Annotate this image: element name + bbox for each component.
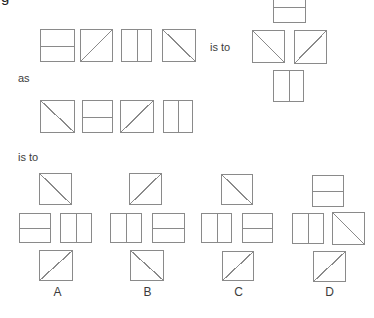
as-label: as	[18, 72, 30, 84]
first-result-top-square	[273, 0, 306, 23]
option-c[interactable]: C	[196, 170, 281, 302]
option-c-top-square	[221, 174, 253, 205]
option-a-left-square	[19, 213, 51, 243]
corner-text-fragment: g	[1, 0, 9, 5]
second-sequence-square-3	[120, 100, 154, 133]
second-sequence-square-1	[40, 100, 75, 133]
option-d-top-square	[312, 175, 344, 207]
is-to-label-bottom: is to	[18, 151, 38, 163]
first-sequence-square-3	[121, 29, 152, 62]
first-result-left-square	[252, 30, 285, 63]
option-b-label[interactable]: B	[105, 285, 190, 299]
is-to-label-top: is to	[210, 41, 230, 53]
option-b-right-square	[152, 213, 185, 243]
first-result-right-square	[294, 30, 327, 64]
option-d[interactable]: D	[287, 170, 372, 302]
option-a-right-square	[60, 213, 92, 243]
option-c-bottom-square	[222, 251, 254, 281]
option-c-label[interactable]: C	[196, 285, 281, 299]
option-d-left-square	[292, 213, 324, 244]
option-a-top-square	[39, 173, 72, 205]
option-c-left-square	[201, 213, 232, 243]
option-a-bottom-square	[39, 250, 73, 281]
option-a[interactable]: A	[15, 170, 100, 302]
second-sequence-square-2	[82, 100, 113, 133]
option-d-bottom-square	[313, 251, 346, 282]
first-sequence-square-1	[40, 29, 75, 62]
first-sequence-square-4	[162, 29, 196, 62]
first-result-bottom-square	[273, 70, 304, 102]
second-sequence-square-4	[163, 100, 193, 133]
option-b-top-square	[129, 173, 162, 205]
option-b-left-square	[110, 213, 142, 243]
option-a-label[interactable]: A	[15, 285, 100, 299]
option-d-right-square	[332, 212, 365, 245]
first-sequence-square-2	[80, 29, 113, 62]
option-b-bottom-square	[130, 250, 164, 281]
option-b[interactable]: B	[105, 170, 190, 302]
option-d-label[interactable]: D	[287, 285, 372, 299]
option-c-right-square	[242, 213, 273, 243]
puzzle-page: g is to as is to A B C	[0, 0, 374, 318]
